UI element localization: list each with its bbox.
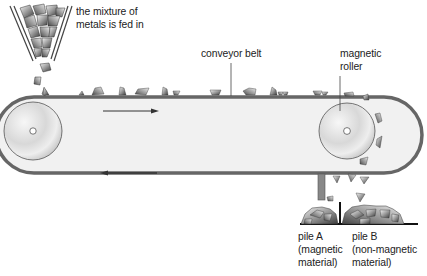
magnetic-roller-label: magnetic roller (340, 47, 381, 73)
conveyor-belt-label: conveyor belt (201, 47, 261, 60)
feed-hopper (10, 4, 72, 96)
falling-metal-pieces (327, 174, 369, 202)
pile-b-label: pile B (non-magnetic material) (352, 230, 417, 269)
pile-a-label: pile A (magnetic material) (298, 230, 343, 269)
feed-label: the mixture of metals is fed in (76, 5, 144, 31)
pile-a (301, 207, 338, 224)
pile-b (342, 205, 404, 224)
chute (318, 174, 325, 200)
magnetic-roller (319, 103, 375, 159)
left-roller (4, 102, 62, 160)
